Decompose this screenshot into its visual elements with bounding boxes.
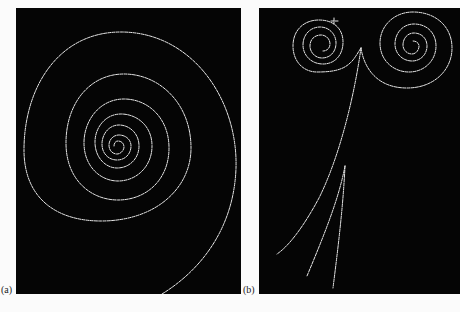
panel-b-label: (b) [243, 284, 255, 295]
panel-a-label: (a) [1, 284, 12, 295]
panel-b-image [259, 8, 460, 294]
spiral-track-a [16, 8, 241, 294]
spiral-pair-tracks-b [259, 8, 460, 294]
panel-a-image [16, 8, 241, 294]
